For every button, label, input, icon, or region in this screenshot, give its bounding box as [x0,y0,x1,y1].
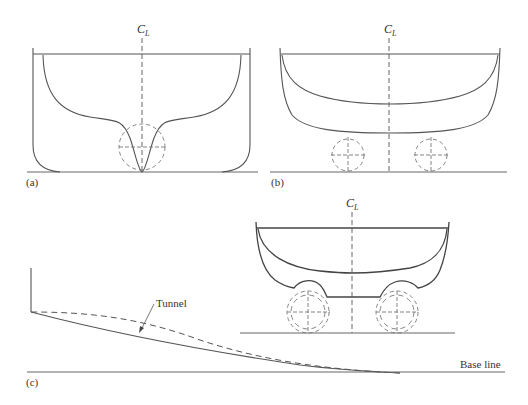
panel-a-outer-hull-left [33,48,60,172]
panel-c-base-line-label: Base line [460,358,501,370]
panel-c-twin-tunnel-hull [256,222,449,297]
panel-b: CL (b) [270,22,507,189]
panel-c-tunnel-arrowhead-icon [139,326,144,333]
panel-a: CL (a) [26,22,258,189]
panel-a-centerline-label: CL [137,22,150,38]
panel-a-label: (a) [26,176,39,189]
panel-a-outer-hull-right [222,48,250,172]
panel-c-tunnel-profile [31,312,400,373]
panel-b-outer-hull [280,48,500,133]
panel-c-tunnel-leader [141,304,154,330]
panel-c-label: (c) [26,376,39,389]
hull-tunnel-diagram: CL (a) CL (b) [0,0,528,405]
panel-c-inner-hull [258,229,447,273]
panel-c-hull-bottom-profile [31,312,400,373]
panel-c-centerline-label: CL [346,196,359,212]
panel-c-tunnel-label: Tunnel [156,297,187,309]
panel-b-inner-hull [282,55,498,104]
panel-c: CL Tunnel Base line (c) [26,196,505,389]
panel-b-centerline-label: CL [384,22,397,38]
panel-b-label: (b) [271,176,284,189]
